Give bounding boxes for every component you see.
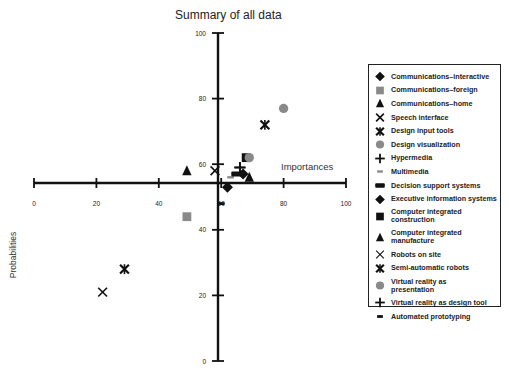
legend-item: Multimedia <box>373 165 500 179</box>
legend-item: Hypermedia <box>373 152 500 166</box>
dash-marker-icon <box>373 311 387 322</box>
legend: Communications–interactiveCommunications… <box>368 64 501 307</box>
legend-label: Design visualization <box>391 141 460 149</box>
legend-label: Virtual reality as design tool <box>391 299 487 307</box>
x-thin-marker-icon <box>373 249 387 260</box>
plus-marker-icon <box>373 153 387 164</box>
legend-item: Semi-automatic robots <box>373 262 500 276</box>
legend-item: Virtual reality as design tool <box>373 296 500 310</box>
legend-item: Decision support systems <box>373 179 500 193</box>
data-point <box>218 202 225 205</box>
legend-label: Communications–foreign <box>391 86 478 94</box>
legend-label: Executive information systems <box>391 195 497 203</box>
asterisk-marker-icon <box>373 126 387 137</box>
data-points <box>98 104 288 297</box>
circle-marker-icon <box>373 280 387 291</box>
legend-label: Semi-automatic robots <box>391 264 469 272</box>
legend-item: Design input tools <box>373 124 500 138</box>
legend-label: Speech interface <box>391 114 449 122</box>
data-point <box>98 288 107 297</box>
y-tick-label: 20 <box>199 292 207 299</box>
legend-label: Multimedia <box>391 168 429 176</box>
legend-item: Automated prototyping <box>373 310 500 324</box>
triangle-marker-icon <box>373 98 387 109</box>
y-tick-label: 60 <box>199 161 207 168</box>
legend-item: Speech interface <box>373 111 500 125</box>
legend-item: Communications–interactive <box>373 70 500 84</box>
data-point <box>260 120 269 130</box>
dash-marker-icon <box>373 166 387 177</box>
x-tick-label: 40 <box>155 200 163 207</box>
y-tick-label: 40 <box>199 226 207 233</box>
legend-label: Virtual reality as presentation <box>391 278 486 294</box>
legend-label: Communications–home <box>391 100 472 108</box>
square-marker-icon <box>373 85 387 96</box>
diamond-marker-icon <box>373 71 387 82</box>
x-tick-label: 20 <box>93 200 101 207</box>
asterisk-marker-icon <box>373 263 387 274</box>
legend-label: Communications–interactive <box>391 73 489 81</box>
legend-item: Communications–home <box>373 97 500 111</box>
legend-label: Hypermedia <box>391 154 432 162</box>
legend-label: Computer integrated manufacture <box>391 229 486 245</box>
plus-marker-icon <box>373 297 387 308</box>
diamond-marker-icon <box>373 194 387 205</box>
x-tick-label: 100 <box>341 200 352 207</box>
legend-item: Virtual reality as presentation <box>373 275 500 296</box>
x-marker-icon <box>373 112 387 123</box>
square-marker-icon <box>373 211 387 222</box>
legend-item: Design visualization <box>373 138 500 152</box>
y-tick-label: 0 <box>202 358 206 365</box>
legend-item: Robots on site <box>373 248 500 262</box>
data-point <box>182 212 191 221</box>
legend-item: Executive information systems <box>373 192 500 206</box>
legend-label: Decision support systems <box>391 182 480 190</box>
x-tick-label: 0 <box>32 200 36 207</box>
circle-marker-icon <box>373 139 387 150</box>
legend-item: Computer integrated construction <box>373 206 500 227</box>
triangle-marker-icon <box>373 232 387 243</box>
data-point <box>279 104 288 113</box>
axes: 020406080100020406080100 <box>32 30 352 365</box>
x-tick-label: 80 <box>280 200 288 207</box>
y-tick-label: 100 <box>195 30 206 37</box>
legend-label: Design input tools <box>391 127 454 135</box>
y-tick-label: 80 <box>199 95 207 102</box>
data-point <box>120 264 129 274</box>
bar-marker-icon <box>373 180 387 191</box>
legend-label: Automated prototyping <box>391 313 470 321</box>
legend-label: Computer integrated construction <box>391 208 486 224</box>
legend-label: Robots on site <box>391 251 441 259</box>
legend-item: Communications–foreign <box>373 84 500 98</box>
legend-item: Computer integrated manufacture <box>373 227 500 248</box>
data-point <box>245 153 254 162</box>
data-point <box>182 165 191 175</box>
